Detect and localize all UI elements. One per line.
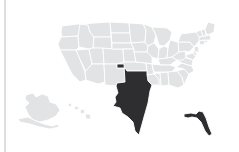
state-indiana[interactable] [158,46,168,59]
us-map-svg [0,0,239,152]
state-florida-highlighted[interactable] [184,111,212,136]
state-minnesota[interactable] [129,23,146,43]
inset-hawaii-4[interactable] [85,114,91,119]
inset-hawaii-3[interactable] [80,109,85,114]
state-iowa[interactable] [131,42,148,52]
state-wyoming[interactable] [93,37,112,49]
state-south-dakota[interactable] [111,33,131,43]
state-utah[interactable] [89,48,104,64]
inset-hawaii[interactable] [68,103,72,107]
state-colorado[interactable] [103,48,124,64]
us-choropleth-map [0,0,239,152]
state-new-jersey[interactable] [194,46,199,52]
insets-layer [18,93,91,129]
state-tennessee[interactable] [152,64,176,72]
state-alabama[interactable] [160,72,169,86]
state-maine[interactable] [205,22,215,35]
state-nebraska[interactable] [112,43,134,49]
state-washington[interactable] [61,24,80,37]
state-north-dakota[interactable] [110,22,130,33]
inset-hawaii-2[interactable] [74,106,79,110]
state-oregon[interactable] [58,36,79,50]
us-map-figure [0,0,239,152]
